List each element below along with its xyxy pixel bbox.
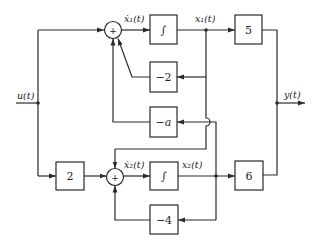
gain-neg2-to-sum1 (118, 39, 150, 78)
integrator-2-block: ∫ (150, 162, 178, 190)
x2-to-gain-neg-a (177, 122, 216, 220)
svg-text:−2: −2 (155, 71, 171, 84)
summer-1: + (105, 22, 122, 39)
integrator-1-block: ∫ (150, 15, 177, 44)
svg-text:2: 2 (67, 170, 74, 183)
gain-neg-a-to-sum1 (113, 39, 150, 123)
gain-neg-a-block: −a (150, 107, 177, 137)
svg-text:∫: ∫ (161, 24, 167, 37)
x2dot-label: ẋ₂(t) (124, 159, 145, 170)
gain-6-block: 6 (235, 161, 263, 190)
output-sum-line (262, 30, 277, 175)
gain-2-block: 2 (56, 162, 84, 190)
summer-2: + (107, 169, 124, 186)
x2-label: x₂(t) (182, 159, 203, 170)
svg-text:+: + (111, 173, 119, 183)
x1-label: x₁(t) (195, 13, 216, 24)
svg-text:−4: −4 (156, 214, 172, 227)
gain-5-block: 5 (235, 15, 262, 44)
gain-neg2-block: −2 (150, 62, 177, 92)
gain-neg4-to-sum2 (115, 186, 150, 221)
svg-text:∫: ∫ (161, 170, 167, 183)
svg-text:+: + (109, 26, 117, 36)
gain-neg4-block: −4 (150, 205, 178, 234)
block-diagram: u(t) + ẋ₁(t) ∫ x₁(t) 5 y(t) −2 −a (0, 0, 319, 244)
x1dot-label: ẋ₁(t) (124, 13, 145, 24)
svg-text:5: 5 (245, 24, 252, 37)
svg-text:−a: −a (156, 116, 172, 129)
output-label: y(t) (283, 89, 301, 100)
svg-text:6: 6 (246, 170, 253, 183)
input-label: u(t) (17, 90, 35, 101)
